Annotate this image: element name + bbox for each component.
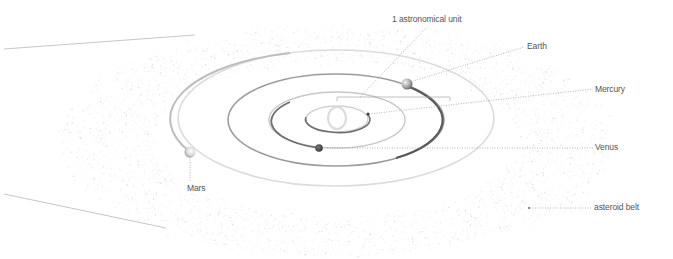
mars-label: Mars <box>187 183 206 193</box>
au-label: 1 astronomical unit <box>392 14 461 24</box>
venus-icon <box>315 144 323 152</box>
perspective-line-top <box>4 35 195 49</box>
perspective-line-bottom <box>4 194 166 228</box>
mercury-icon <box>366 112 369 115</box>
mercury-label: Mercury <box>595 84 625 94</box>
asteroid-belt-label: asteroid belt <box>594 202 639 212</box>
au-leader <box>360 27 427 97</box>
earth-orbit <box>228 74 444 166</box>
sun-icon <box>328 107 346 129</box>
earth-label: Earth <box>527 41 547 51</box>
asteroid-belt-marker <box>528 207 530 209</box>
mars-icon <box>185 147 196 158</box>
mercury-leader <box>369 89 593 114</box>
venus-label: Venus <box>595 142 618 152</box>
solar-system-diagram <box>0 0 673 259</box>
earth-icon <box>402 79 413 90</box>
